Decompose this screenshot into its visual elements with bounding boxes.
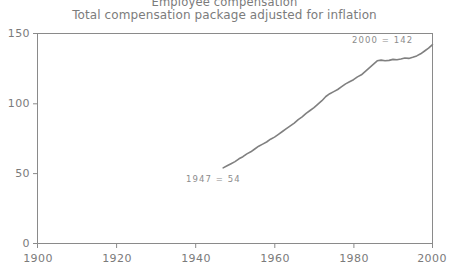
- x-axis-label-1920: 1920: [91, 252, 143, 265]
- annotation-start-1947: 1947 = 54: [186, 174, 241, 184]
- x-axis-label-2000: 2000: [406, 252, 449, 265]
- data-series-line: [223, 45, 432, 168]
- y-axis-label-150: 150: [0, 27, 30, 40]
- chart-figure: Employee compensation Total compensation…: [0, 0, 449, 277]
- x-axis-label-1940: 1940: [170, 252, 222, 265]
- x-axis-label-1900: 1900: [12, 252, 64, 265]
- y-axis-label-50: 50: [0, 167, 30, 180]
- annotation-end-2000: 2000 = 142: [352, 35, 413, 45]
- y-axis-label-100: 100: [0, 97, 30, 110]
- x-axis-label-1980: 1980: [328, 252, 380, 265]
- x-axis-label-1960: 1960: [249, 252, 301, 265]
- y-axis-label-0: 0: [0, 237, 30, 250]
